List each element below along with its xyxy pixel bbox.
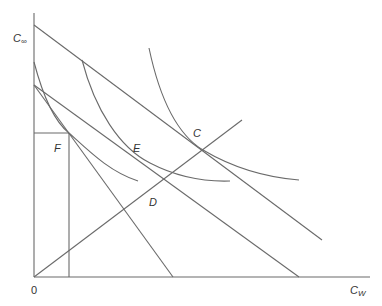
- point-label-d: D: [149, 196, 157, 208]
- origin-label: 0: [31, 284, 37, 296]
- x-axis-label: CW: [350, 284, 367, 298]
- indifference-curve-1: [34, 62, 138, 181]
- y-axis-label: C∞: [13, 32, 27, 46]
- point-label-f: F: [54, 142, 62, 154]
- budget-line-middle: [34, 85, 299, 277]
- diagram-canvas: C∞ CW 0 C D E F: [0, 0, 382, 306]
- point-label-e: E: [133, 142, 141, 154]
- indifference-curve-3: [149, 48, 299, 180]
- budget-line-top: [34, 25, 322, 240]
- point-label-c: C: [193, 127, 201, 139]
